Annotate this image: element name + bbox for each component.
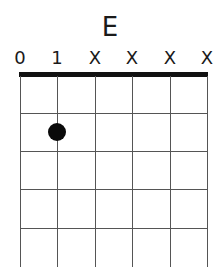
string-line (95, 76, 96, 267)
string-marker: 1 (47, 48, 67, 68)
string-line (20, 76, 21, 267)
fret-line (20, 189, 208, 190)
fret-line (20, 113, 208, 114)
nut (19, 72, 208, 77)
string-marker: X (160, 48, 180, 68)
fret-line (20, 151, 208, 152)
fret-line (20, 228, 208, 229)
chord-title: E (0, 12, 220, 42)
string-line (170, 76, 171, 267)
string-marker: 0 (10, 48, 30, 68)
string-line (207, 76, 208, 267)
string-marker: X (122, 48, 142, 68)
string-line (132, 76, 133, 267)
string-marker: X (197, 48, 217, 68)
finger-dot (48, 123, 66, 141)
string-marker: X (85, 48, 105, 68)
string-line (57, 76, 58, 267)
